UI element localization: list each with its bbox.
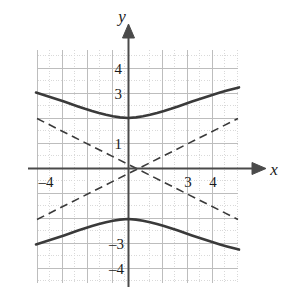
- x-tick-label-4: 4: [209, 174, 217, 190]
- y-axis-label: y: [116, 7, 126, 26]
- x-axis-label: x: [269, 160, 278, 179]
- y-tick-label-neg4: –4: [108, 261, 125, 277]
- background: [0, 0, 288, 295]
- y-tick-label-4: 4: [115, 61, 123, 77]
- hyperbola-graph: y x 4 3 1 –3 –4 –4 3 4: [0, 0, 288, 295]
- y-tick-label-3: 3: [115, 86, 123, 102]
- y-tick-label-1: 1: [115, 136, 123, 152]
- x-tick-label-neg4: –4: [38, 174, 55, 190]
- x-tick-label-3: 3: [184, 174, 192, 190]
- figure-canvas: y x 4 3 1 –3 –4 –4 3 4: [0, 0, 288, 295]
- y-tick-label-neg3: –3: [108, 236, 124, 252]
